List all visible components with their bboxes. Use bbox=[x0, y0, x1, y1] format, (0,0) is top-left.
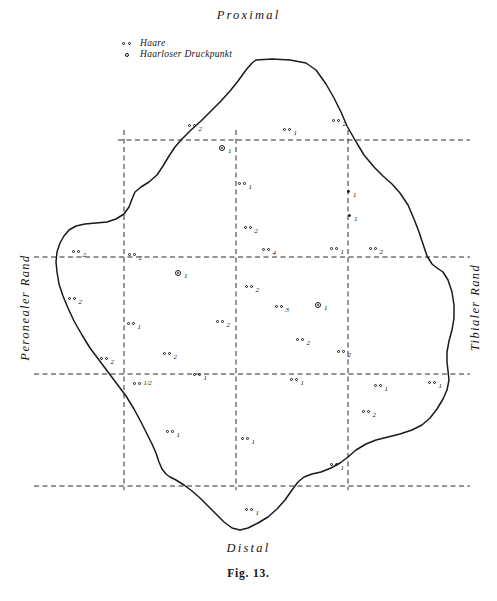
data-point-label: 1 bbox=[228, 148, 232, 155]
data-point-label: 3 bbox=[286, 307, 290, 314]
data-point-label: 1 bbox=[324, 305, 328, 312]
grid-layer bbox=[34, 130, 470, 490]
data-point-label: 1 bbox=[439, 383, 443, 390]
data-point-label: 2 bbox=[111, 359, 115, 366]
circle-icon bbox=[118, 49, 140, 60]
data-point-label: 1 bbox=[341, 249, 345, 256]
data-point-label: 2 bbox=[348, 352, 352, 359]
data-point-label: 2 bbox=[227, 322, 231, 329]
data-point-label: 2 bbox=[199, 126, 203, 133]
legend-item-haare: Haare bbox=[118, 38, 232, 49]
data-point-label: 1 bbox=[249, 184, 253, 191]
data-point-label: 4 bbox=[273, 250, 277, 257]
data-point-label: 1 bbox=[294, 130, 298, 137]
data-point-label: 1 bbox=[138, 324, 142, 331]
data-point-label: 2 bbox=[174, 354, 178, 361]
label-distal: Distal bbox=[0, 541, 497, 556]
figure-container: Proximal Distal Peronealer Rand Tibialer… bbox=[0, 0, 497, 601]
figure-canvas bbox=[0, 0, 497, 601]
foot-outline-layer bbox=[56, 59, 454, 530]
double-dot-icon bbox=[118, 38, 140, 49]
data-point-label: 2 bbox=[256, 287, 260, 294]
label-proximal: Proximal bbox=[0, 8, 497, 23]
data-point-label: 2 bbox=[79, 299, 83, 306]
data-point-label: 1 bbox=[177, 432, 181, 439]
marker-double-ring bbox=[219, 145, 225, 151]
data-point-label: 2 bbox=[373, 412, 377, 419]
figure-caption: Fig. 13. bbox=[0, 567, 497, 579]
label-peroneal-rand: Peronealer Rand bbox=[18, 238, 33, 378]
data-point-label: 1 bbox=[184, 273, 188, 280]
data-point-label: 1 bbox=[353, 192, 357, 199]
data-point-label: 2 bbox=[255, 228, 259, 235]
data-point-label: 1 bbox=[385, 386, 389, 393]
data-point-label: 1 bbox=[256, 510, 260, 517]
data-point-label: 2 bbox=[139, 255, 143, 262]
marker-double-ring bbox=[315, 302, 321, 308]
data-point-label: 2 bbox=[83, 252, 87, 259]
foot-outline-path bbox=[56, 59, 454, 530]
data-point-label: 1 bbox=[204, 375, 208, 382]
legend-item-druckpunkt: Haarloser Druckpunkt bbox=[118, 49, 232, 60]
data-point-label: 1 bbox=[341, 465, 345, 472]
data-point-label: 1/2 bbox=[144, 380, 152, 387]
marker-double-ring bbox=[175, 270, 181, 276]
data-point-label: 2 bbox=[307, 340, 311, 347]
legend-label-haare: Haare bbox=[140, 38, 165, 49]
data-point-label: 1 bbox=[301, 380, 305, 387]
data-point-label: 1 bbox=[354, 216, 358, 223]
legend-label-druckpunkt: Haarloser Druckpunkt bbox=[140, 49, 232, 60]
label-tibial-rand: Tibialer Rand bbox=[468, 238, 483, 378]
data-point-label: 2 bbox=[380, 249, 384, 256]
data-point-label: 1 bbox=[252, 439, 256, 446]
data-point-label: 2 bbox=[343, 121, 347, 128]
legend: Haare Haarloser Druckpunkt bbox=[118, 38, 232, 60]
